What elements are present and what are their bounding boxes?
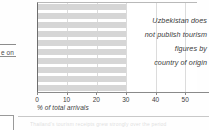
x-tick-label: 0 (35, 96, 39, 103)
x-tick (96, 92, 97, 95)
x-tick-label: 20 (93, 96, 100, 103)
annotation-line: not publish tourism (111, 28, 207, 42)
annotation-line: figures by (111, 42, 207, 56)
bar-row (38, 85, 197, 91)
x-axis-ticks (37, 92, 197, 96)
bar-chart: % of total arrivals Uzbekistan doesnot p… (34, 0, 209, 112)
x-axis-label: % of total arrivals (37, 104, 89, 111)
bar-row (38, 4, 197, 10)
x-tick (126, 92, 127, 95)
cropped-table-cell-text: e on (1, 49, 14, 56)
annotation-line: country of origin (111, 56, 207, 70)
bar-row (38, 76, 197, 82)
chart-annotation: Uzbekistan doesnot publish tourismfigure… (111, 14, 207, 70)
bar (38, 85, 126, 91)
cropped-document-page: e on Thailand's tourism receipts grew st… (0, 0, 209, 130)
annotation-line: Uzbekistan does (111, 14, 207, 28)
bar (38, 76, 126, 82)
x-tick (37, 92, 38, 95)
cropped-horizontal-rule (18, 116, 209, 117)
x-tick-label: 50 (182, 96, 189, 103)
bar (38, 4, 126, 10)
cropped-caption-text: Thailand's tourism receipts grew strongl… (30, 121, 207, 127)
x-tick (156, 92, 157, 95)
x-tick-label: 10 (63, 96, 70, 103)
x-tick (67, 92, 68, 95)
x-tick-label: 30 (122, 96, 129, 103)
cropped-figure-marker (0, 115, 14, 130)
x-tick-label: 40 (152, 96, 159, 103)
x-tick (185, 92, 186, 95)
